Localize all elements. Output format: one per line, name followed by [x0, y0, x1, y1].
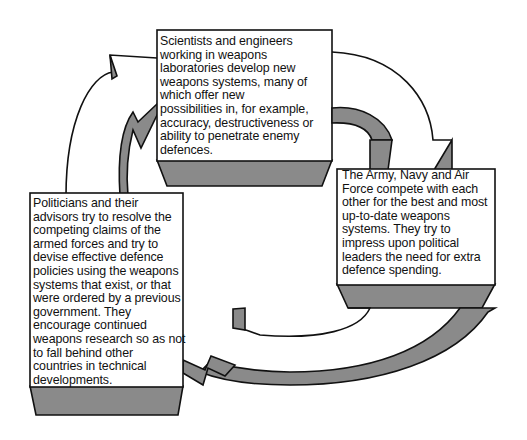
box-politicians-shadow: [30, 386, 183, 415]
arrow-band-left-inner: [119, 103, 158, 196]
box-scientists-text: Scientists and engineers working in weap…: [160, 35, 330, 157]
arrowhead-inner-left: [233, 308, 245, 330]
box-armed-forces-text: The Army, Navy and Air Force compete wit…: [342, 169, 494, 278]
arrow-scientists-to-armed-outer: [332, 52, 452, 140]
arrowhead-armed-left: [370, 140, 392, 170]
arrowhead-armed-right: [434, 140, 452, 170]
box-scientists-shadow: [157, 160, 332, 186]
arrow-band-top-right: [332, 108, 392, 140]
arrow-inner-white-curve: [233, 308, 370, 336]
box-politicians-text: Politicians and their advisors try to re…: [33, 197, 188, 387]
box-armed-shadow: [337, 284, 495, 308]
